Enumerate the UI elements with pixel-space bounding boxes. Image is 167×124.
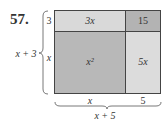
bottom-brace-icon bbox=[55, 102, 161, 109]
brace-icons bbox=[0, 0, 167, 124]
left-brace-icon bbox=[39, 11, 48, 94]
